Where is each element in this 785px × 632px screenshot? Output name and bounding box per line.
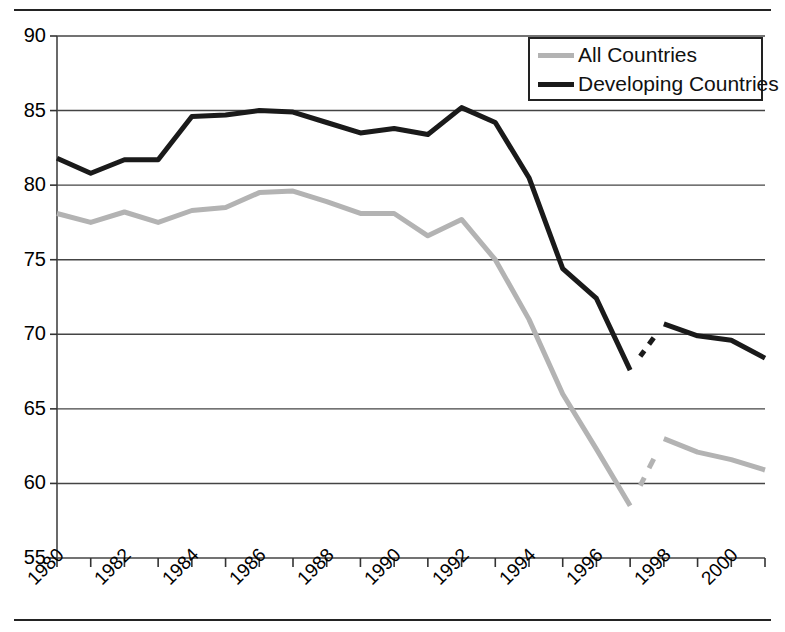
y-tick-label-60: 60	[2, 472, 46, 492]
break-dash-0	[640, 478, 644, 486]
legend-item-developing-countries: Developing Countries	[538, 70, 779, 98]
break-dash-1	[649, 338, 654, 344]
legend-item-all-countries: All Countries	[538, 41, 697, 69]
y-tick-label-90: 90	[2, 25, 46, 45]
y-tick-label-75: 75	[2, 249, 46, 269]
legend-label-developing-countries: Developing Countries	[578, 72, 779, 96]
series-line-0	[57, 191, 630, 506]
y-tick-label-65: 65	[2, 398, 46, 418]
chart-legend: All Countries Developing Countries	[528, 37, 763, 101]
series-line-1	[664, 439, 765, 470]
figure-canvas: 9085807570656055 19801982198419861988199…	[0, 0, 785, 632]
y-tick-label-70: 70	[2, 323, 46, 343]
legend-swatch-all-countries	[538, 53, 574, 58]
series-break-dashes-0	[640, 459, 653, 486]
legend-label-all-countries: All Countries	[578, 43, 697, 67]
legend-swatch-developing-countries	[538, 82, 574, 87]
break-dash-1	[649, 459, 654, 468]
y-tick-label-80: 80	[2, 174, 46, 194]
series-line-3	[664, 324, 765, 358]
y-tick-label-85: 85	[2, 100, 46, 120]
break-dash-0	[640, 351, 644, 357]
series-line-2	[57, 108, 630, 370]
series-break-dashes-2	[640, 338, 653, 356]
